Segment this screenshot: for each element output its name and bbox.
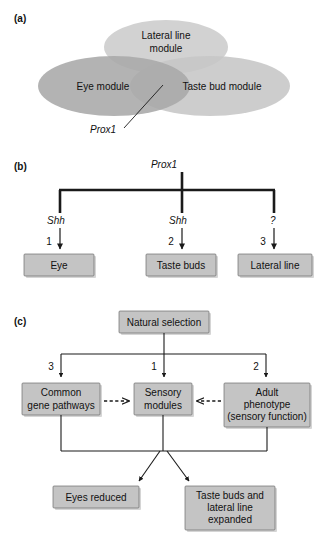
panel-c-adult-phenotype-line3: (sensory function) — [227, 411, 306, 422]
panel-c-adult-phenotype-line2: phenotype — [244, 399, 291, 410]
lateral-line-module-label-line1: Lateral line — [142, 30, 191, 41]
prox1-annotation-label: Prox1 — [90, 124, 116, 135]
eye-module-label: Eye module — [77, 81, 130, 92]
panel-b-box-eye-label: Eye — [50, 260, 68, 271]
panel-c-bracket — [61, 333, 266, 377]
panel-b-box-lateral-line-label: Lateral line — [251, 260, 300, 271]
lateral-line-module-label-line2: module — [150, 43, 183, 54]
panel-b-gene-label-2: Shh — [169, 215, 187, 226]
panel-c-number-3: 3 — [48, 361, 54, 372]
panel-label-b: (b) — [14, 161, 27, 172]
panel-b-number-3: 3 — [260, 236, 266, 247]
figure-root: (a) Lateral line module Eye module Taste… — [0, 0, 328, 540]
panel-label-c: (c) — [14, 316, 26, 327]
panel-b-number-1: 1 — [46, 236, 52, 247]
taste-bud-module-label: Taste bud module — [183, 81, 262, 92]
panel-b-number-2: 2 — [168, 236, 174, 247]
panel-c-number-2: 2 — [253, 361, 259, 372]
panel-b-box-taste-buds-label: Taste buds — [157, 260, 205, 271]
panel-b-source-label: Prox1 — [151, 159, 177, 170]
panel-c-natural-selection-label: Natural selection — [127, 317, 201, 328]
panel-c-taste-expanded-line2: lateral line — [207, 502, 253, 513]
panel-c-number-1: 1 — [151, 361, 157, 372]
panel-c-arrow-to-eyes-reduced — [139, 451, 160, 481]
panel-c-arrow-to-taste-expanded — [167, 451, 189, 481]
panel-c-sensory-modules-line1: Sensory — [145, 387, 182, 398]
panel-c-sensory-modules-line2: modules — [144, 400, 182, 411]
panel-c-adult-phenotype-line1: Adult — [256, 387, 279, 398]
panel-b-gene-label-1: Shh — [47, 215, 65, 226]
panel-label-a: (a) — [14, 13, 26, 24]
panel-c-eyes-reduced-label: Eyes reduced — [65, 492, 126, 503]
panel-b-bracket — [59, 172, 275, 213]
panel-c-taste-expanded-line1: Taste buds and — [196, 490, 264, 501]
panel-c-common-gene-pathways-line2: gene pathways — [27, 400, 94, 411]
panel-c-common-gene-pathways-line1: Common — [41, 387, 82, 398]
panel-c-taste-expanded-line3: expanded — [208, 514, 252, 525]
scientific-figure: (a) Lateral line module Eye module Taste… — [0, 0, 328, 540]
panel-b-gene-label-3: ? — [270, 215, 276, 226]
